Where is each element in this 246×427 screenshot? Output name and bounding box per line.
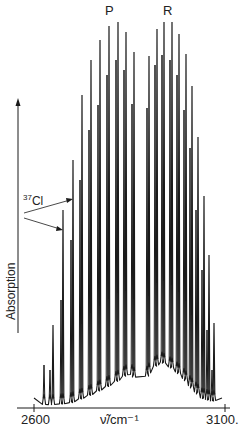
spectral-line xyxy=(90,60,92,389)
spectral-line xyxy=(178,34,180,368)
spectral-line xyxy=(206,330,208,394)
spectral-line xyxy=(125,32,127,369)
spectral-line xyxy=(72,160,74,396)
spectral-line xyxy=(123,70,125,370)
spectral-line xyxy=(195,210,197,386)
spectral-line xyxy=(183,110,185,372)
spectral-line xyxy=(208,255,210,394)
spectral-line xyxy=(197,137,199,388)
spectral-line xyxy=(163,22,165,357)
spectral-line xyxy=(131,104,133,369)
isotope-symbol: Cl xyxy=(32,194,43,208)
spectral-line xyxy=(43,365,45,398)
spectral-line xyxy=(99,40,101,384)
spectral-line xyxy=(191,86,193,382)
x-axis-label: ν̃/cm⁻¹ xyxy=(100,412,139,427)
spectral-line xyxy=(201,270,203,392)
isotope-peaks xyxy=(43,55,213,399)
spectral-line xyxy=(62,210,64,398)
spectral-line xyxy=(52,325,54,398)
spectral-line xyxy=(79,180,81,393)
spectral-line xyxy=(161,55,163,356)
spectral-line xyxy=(213,323,215,394)
spectral-line xyxy=(176,75,178,366)
spectral-line xyxy=(154,65,156,360)
spectral-line xyxy=(60,300,62,398)
y-axis-label: Absorption xyxy=(4,263,18,320)
spectral-line xyxy=(133,52,135,371)
spectral-line xyxy=(88,130,90,389)
spectral-line xyxy=(171,22,173,362)
isotope-label: 37Cl xyxy=(23,193,43,208)
spectral-line xyxy=(106,75,108,381)
r-branch-label: R xyxy=(163,3,172,18)
spectral-line xyxy=(115,60,117,375)
spectral-line xyxy=(203,196,205,393)
spectral-line xyxy=(156,29,158,359)
spectrum-chart xyxy=(0,0,246,427)
x-tick-3100: 3100. xyxy=(206,412,239,427)
spectral-line xyxy=(146,108,148,370)
spectral-line xyxy=(117,22,119,374)
spectral-line xyxy=(185,54,187,375)
spectral-line xyxy=(169,60,171,361)
p-branch-label: P xyxy=(105,3,114,18)
spectral-line xyxy=(108,26,110,380)
spectral-line xyxy=(148,56,150,367)
isotope-mass: 37 xyxy=(23,193,32,202)
x-axis xyxy=(17,404,230,412)
spectral-line xyxy=(81,95,83,392)
spectral-line xyxy=(70,240,72,397)
spectral-line xyxy=(189,148,191,380)
spectral-line xyxy=(97,105,99,385)
x-tick-2600: 2600 xyxy=(21,412,50,427)
